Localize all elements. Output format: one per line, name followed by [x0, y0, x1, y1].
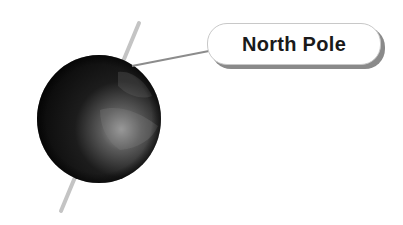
label-text: North Pole	[242, 33, 346, 56]
earth-globe	[37, 55, 161, 183]
north-pole-label: North Pole	[207, 23, 381, 65]
label-connector	[132, 51, 209, 66]
